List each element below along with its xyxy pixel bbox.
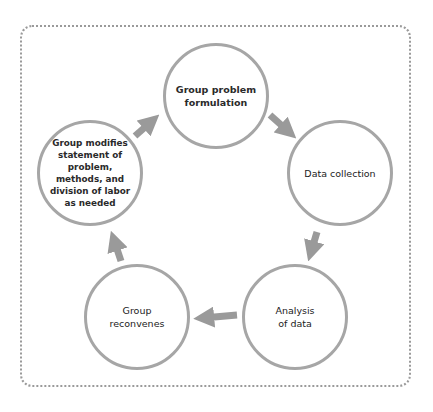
node-analysis-of-data: Analysis of data xyxy=(242,264,348,370)
node-label: Group problem formulation xyxy=(172,83,260,109)
node-group-reconvenes: Group reconvenes xyxy=(84,264,190,370)
node-data-collection: Data collection xyxy=(287,120,393,226)
node-label: Data collection xyxy=(300,167,379,180)
node-group-problem-formulation: Group problem formulation xyxy=(163,43,269,149)
node-label: Group modifies statement of problem, met… xyxy=(46,137,134,209)
node-group-modifies: Group modifies statement of problem, met… xyxy=(37,120,143,226)
node-label: Group reconvenes xyxy=(106,304,169,330)
node-label: Analysis of data xyxy=(271,304,318,330)
